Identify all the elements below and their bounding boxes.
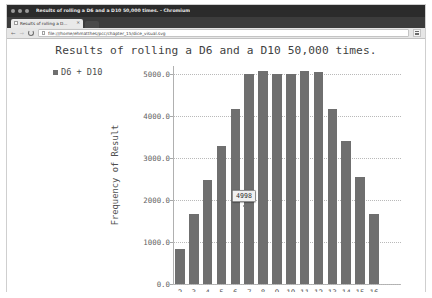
y-tick-label: 0.0 — [157, 280, 170, 289]
bar-slot[interactable]: 5 — [215, 66, 229, 284]
bar[interactable] — [203, 180, 213, 284]
window-titlebar: Results of rolling a D6 and a D10 50,000… — [7, 5, 425, 17]
bar-slot[interactable]: 2 — [173, 66, 187, 284]
tab-close-icon[interactable]: × — [76, 21, 80, 25]
bar-slot[interactable]: 9 — [270, 66, 284, 284]
bar[interactable] — [328, 109, 338, 284]
bar-slot[interactable]: 6 — [228, 66, 242, 284]
x-tick-label: 16 — [369, 288, 378, 292]
page-favicon-icon — [14, 21, 18, 25]
y-tick-label: 5000.0 — [143, 70, 170, 79]
svg-chart-viewport: Results of rolling a D6 and a D10 50,000… — [7, 39, 425, 292]
bar-slot[interactable]: 16 — [367, 66, 381, 284]
plot-area: 0.01000.02000.03000.04000.05000.0 234567… — [173, 66, 381, 284]
bar-slot[interactable]: 3 — [187, 66, 201, 284]
y-tick-label: 2000.0 — [143, 196, 170, 205]
chart-title: Results of rolling a D6 and a D10 50,000… — [7, 44, 425, 57]
reload-icon[interactable] — [28, 30, 34, 36]
x-tick-label: 11 — [300, 288, 309, 292]
address-bar[interactable]: file:///home/ehmatthes/pcc/chapter_15/di… — [38, 29, 409, 37]
x-tick-label: 4 — [205, 288, 210, 292]
x-tick-label: 2 — [178, 288, 183, 292]
bar-slot[interactable]: 15 — [353, 66, 367, 284]
x-tick-label: 13 — [328, 288, 337, 292]
x-tick-label: 12 — [314, 288, 323, 292]
bar-slot[interactable]: 12 — [312, 66, 326, 284]
bar-slot[interactable]: 4 — [201, 66, 215, 284]
tab-strip: Results of rolling a D... × — [7, 17, 425, 28]
new-tab-button[interactable] — [85, 21, 99, 28]
bar-slot[interactable]: 11 — [298, 66, 312, 284]
window-minimize-button[interactable] — [11, 9, 15, 13]
window-close-button[interactable] — [25, 9, 29, 13]
x-tick-label: 5 — [219, 288, 224, 292]
y-tick-label: 3000.0 — [143, 154, 170, 163]
x-tick-label: 14 — [342, 288, 351, 292]
bar[interactable] — [369, 214, 379, 284]
bar[interactable] — [272, 74, 282, 284]
bar-slot[interactable]: 10 — [284, 66, 298, 284]
bar-series: 2345678910111213141516 — [173, 66, 381, 284]
chart-legend[interactable]: D6 + D10 — [53, 67, 102, 77]
back-icon[interactable]: ← — [11, 30, 16, 36]
legend-swatch-icon — [53, 70, 58, 75]
bar[interactable] — [300, 71, 310, 284]
tab-title: Results of rolling a D... — [20, 21, 74, 26]
x-tick-label: 9 — [275, 288, 280, 292]
bar[interactable] — [217, 146, 227, 284]
tab-dice-visual[interactable]: Results of rolling a D... × — [11, 19, 83, 29]
y-axis-label: Frequency of Result — [110, 125, 120, 226]
bar[interactable] — [314, 72, 324, 284]
gridline — [173, 284, 401, 285]
bar-tooltip: 4998 — [232, 190, 256, 202]
bar-slot[interactable]: 7 — [242, 66, 256, 284]
document-icon — [42, 31, 45, 35]
bar-slot[interactable]: 8 — [256, 66, 270, 284]
y-tick-label: 4000.0 — [143, 112, 170, 121]
bar[interactable] — [286, 74, 296, 284]
browser-window: Results of rolling a D6 and a D10 50,000… — [6, 4, 426, 292]
bar[interactable] — [244, 74, 254, 284]
bar[interactable] — [258, 71, 268, 284]
screenshot-root: Results of rolling a D6 and a D10 50,000… — [0, 0, 432, 298]
menu-icon[interactable] — [413, 29, 421, 37]
legend-label: D6 + D10 — [61, 67, 102, 77]
window-maximize-button[interactable] — [18, 9, 22, 13]
y-tick-mark — [170, 284, 173, 285]
y-tick-label: 1000.0 — [143, 238, 170, 247]
x-tick-label: 3 — [191, 288, 196, 292]
bar[interactable] — [341, 141, 351, 284]
x-tick-label: 6 — [233, 288, 238, 292]
forward-icon: → — [20, 30, 25, 36]
browser-toolbar: ← → file:///home/ehmatthes/pcc/chapter_1… — [7, 28, 425, 39]
window-title: Results of rolling a D6 and a D10 50,000… — [36, 8, 190, 14]
bar[interactable] — [355, 177, 365, 284]
bar[interactable] — [189, 214, 199, 284]
tooltip-anchor-dot — [243, 205, 245, 207]
bar-slot[interactable]: 13 — [325, 66, 339, 284]
url-text: file:///home/ehmatthes/pcc/chapter_15/di… — [48, 31, 166, 36]
bar[interactable] — [175, 249, 185, 284]
x-tick-label: 7 — [247, 288, 252, 292]
x-tick-label: 15 — [356, 288, 365, 292]
x-tick-label: 8 — [261, 288, 266, 292]
x-tick-label: 10 — [286, 288, 295, 292]
bar-slot[interactable]: 14 — [339, 66, 353, 284]
